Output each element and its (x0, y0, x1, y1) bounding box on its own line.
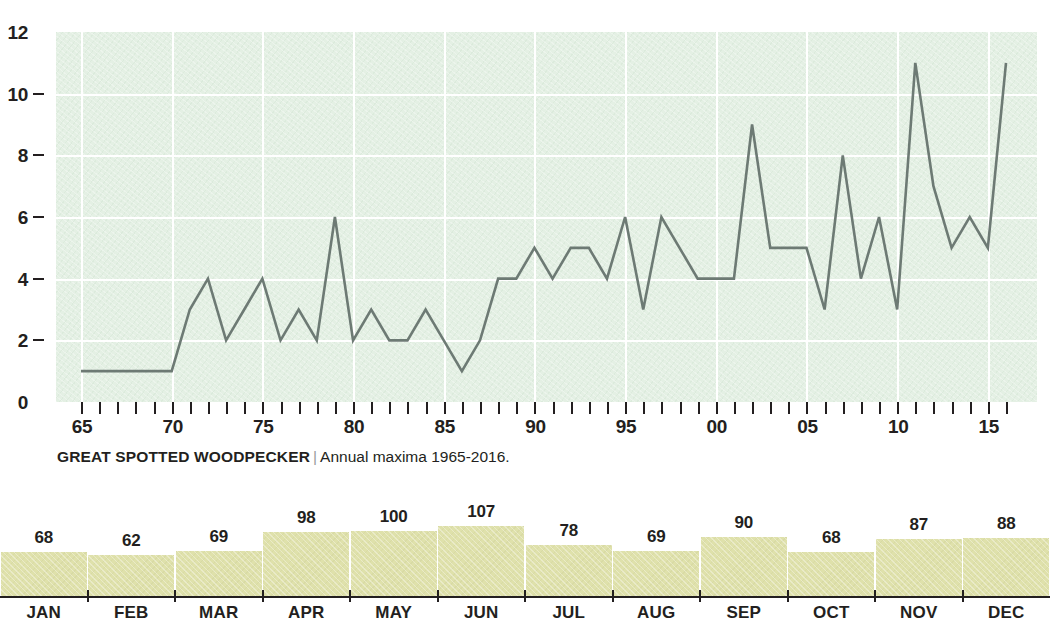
bar-separator-tick (787, 590, 789, 602)
x-tick-label: 75 (253, 417, 274, 436)
x-tick-label: 70 (162, 417, 183, 436)
x-tick-label: 10 (888, 417, 909, 436)
x-tick (643, 402, 645, 414)
x-tick (661, 402, 663, 414)
x-tick (190, 402, 192, 414)
x-tick (734, 402, 736, 414)
x-tick-label: 95 (616, 417, 637, 436)
x-tick (988, 402, 990, 414)
x-tick (879, 402, 881, 414)
bar-column[interactable]: 69 (613, 488, 699, 596)
x-tick (970, 402, 972, 414)
line-chart-y-axis: 024681012 (0, 0, 46, 420)
bar-value-label: 69 (176, 528, 262, 545)
y-tick-label: 8 (18, 146, 28, 165)
bar-value-label: 78 (526, 522, 612, 539)
y-tick-dash (33, 93, 44, 95)
bar-chart-plot-area: 68626998100107786990688788 (0, 488, 1050, 596)
bar-rect (526, 545, 612, 596)
x-tick (389, 402, 391, 414)
bar-month-label: NOV (876, 604, 962, 621)
x-tick (897, 402, 899, 414)
bar-column[interactable]: 100 (351, 488, 437, 596)
bar-separator-tick (437, 590, 439, 602)
bar-month-label: JUL (526, 604, 612, 621)
bar-column[interactable]: 68 (788, 488, 874, 596)
x-tick (915, 402, 917, 414)
bar-rect (1, 552, 87, 596)
bar-column[interactable]: 88 (963, 488, 1049, 596)
x-tick (480, 402, 482, 414)
x-tick (317, 402, 319, 414)
bar-separator-tick (524, 590, 526, 602)
bar-rect (263, 532, 349, 596)
x-tick-label: 85 (434, 417, 455, 436)
line-series-svg (56, 32, 1037, 402)
y-tick-label: 10 (7, 84, 28, 103)
y-tick-label: 0 (18, 393, 28, 412)
bar-rect (438, 526, 524, 596)
x-tick (462, 402, 464, 414)
x-tick (81, 402, 83, 414)
bar-value-label: 107 (438, 503, 524, 520)
bar-value-label: 69 (613, 528, 699, 545)
bar-column[interactable]: 98 (263, 488, 349, 596)
x-tick (571, 402, 573, 414)
bar-column[interactable]: 87 (876, 488, 962, 596)
bar-separator-tick (612, 590, 614, 602)
x-tick (444, 402, 446, 414)
caption-subtitle: Annual maxima 1965-2016. (320, 448, 510, 465)
bar-month-label: MAR (176, 604, 262, 621)
monthly-bar-chart-panel: 68626998100107786990688788 JANFEBMARAPRM… (0, 488, 1050, 623)
x-tick (498, 402, 500, 414)
bar-month-label: FEB (88, 604, 174, 621)
x-tick (716, 402, 718, 414)
line-series-path (81, 63, 1006, 371)
bar-rect (613, 551, 699, 596)
x-tick (589, 402, 591, 414)
line-chart-plot-area (56, 32, 1037, 402)
bar-column[interactable]: 62 (88, 488, 174, 596)
x-tick (99, 402, 101, 414)
x-tick (534, 402, 536, 414)
x-tick (335, 402, 337, 414)
x-tick (933, 402, 935, 414)
bar-month-label: MAY (351, 604, 437, 621)
x-tick (952, 402, 954, 414)
x-tick (117, 402, 119, 414)
bar-month-label: JUN (438, 604, 524, 621)
bar-column[interactable]: 90 (701, 488, 787, 596)
x-tick (553, 402, 555, 414)
x-tick (806, 402, 808, 414)
bar-rect (963, 538, 1049, 596)
bar-rect (876, 539, 962, 596)
bar-rect (788, 552, 874, 596)
x-tick-label: 05 (797, 417, 818, 436)
x-tick-label: 00 (707, 417, 728, 436)
bar-month-label: APR (263, 604, 349, 621)
x-tick (262, 402, 264, 414)
x-tick (281, 402, 283, 414)
x-tick (698, 402, 700, 414)
bar-column[interactable]: 68 (1, 488, 87, 596)
bar-column[interactable]: 107 (438, 488, 524, 596)
x-tick-label: 90 (525, 417, 546, 436)
y-tick-label: 12 (7, 23, 28, 42)
bar-separator-tick (962, 590, 964, 602)
bar-separator-tick (349, 590, 351, 602)
x-tick (752, 402, 754, 414)
bar-column[interactable]: 69 (176, 488, 262, 596)
bar-rect (88, 555, 174, 596)
bar-value-label: 88 (963, 515, 1049, 532)
bar-value-label: 68 (788, 529, 874, 546)
bar-value-label: 98 (263, 509, 349, 526)
x-tick-label: 15 (979, 417, 1000, 436)
y-tick-dash (33, 216, 44, 218)
bar-month-label: DEC (963, 604, 1049, 621)
bar-column[interactable]: 78 (526, 488, 612, 596)
x-tick (825, 402, 827, 414)
x-tick (371, 402, 373, 414)
bar-separator-tick (699, 590, 701, 602)
y-tick-dash (33, 154, 44, 156)
y-tick-label: 2 (18, 331, 28, 350)
